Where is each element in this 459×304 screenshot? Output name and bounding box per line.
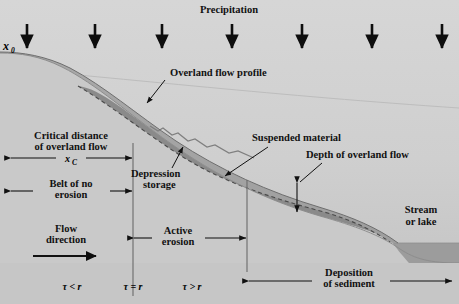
x0-subscript: 0 — [11, 46, 15, 55]
active-erosion-label-line1: Active — [164, 225, 193, 236]
tau-greater-than-r-label: τ > r — [182, 281, 201, 292]
flow-direction-label-line2: direction — [46, 234, 86, 245]
flow-direction-label-line1: Flow — [55, 223, 78, 234]
belt-label-line1: Belt of no — [49, 178, 92, 189]
stream-label-line1: Stream — [405, 204, 438, 215]
depression-storage-label-line2: storage — [143, 179, 176, 190]
tau-less-than-r-label: τ < r — [62, 281, 81, 292]
tau-equal-r-label: τ = r — [123, 281, 142, 292]
overland-flow-profile-label: Overland flow profile — [170, 67, 267, 78]
depth-of-overland-flow-label: Depth of overland flow — [306, 149, 409, 160]
deposition-label-line2: of sediment — [323, 278, 375, 289]
x0-label: x — [2, 39, 9, 53]
stream-label-line2: or lake — [405, 216, 436, 227]
active-erosion-label-line2: erosion — [162, 236, 195, 247]
stream-or-lake-annotation: Stream or lake — [405, 204, 438, 227]
diagram-canvas: Precipitation x 0 Overland flow profile … — [0, 0, 459, 304]
xc-label: x — [64, 153, 70, 164]
deposition-label-line1: Deposition — [325, 267, 373, 278]
depression-storage-label-line1: Depression — [131, 168, 181, 179]
critical-distance-label-line1: Critical distance — [34, 130, 108, 141]
precipitation-label: Precipitation — [200, 4, 258, 15]
overland-flow-diagram: Precipitation x 0 Overland flow profile … — [0, 0, 459, 304]
suspended-material-label: Suspended material — [252, 132, 341, 143]
belt-label-line2: erosion — [55, 189, 88, 200]
critical-distance-label-line2: of overland flow — [35, 141, 108, 152]
